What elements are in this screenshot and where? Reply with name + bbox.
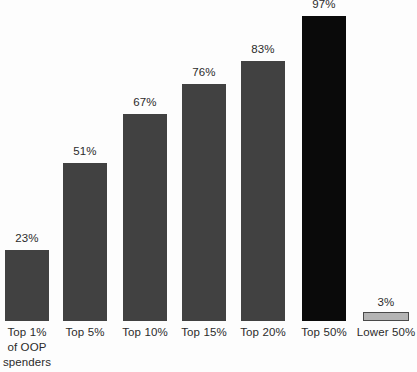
bar-top-5-pct-category-label: Top 5% [66, 325, 105, 340]
category-label-line: spenders [3, 355, 51, 370]
category-label-line: Top 15% [181, 325, 226, 340]
category-label-line: Lower 50% [357, 325, 415, 340]
bar-top-50-pct[interactable] [302, 16, 346, 321]
bar-lower-50-pct-group: 3%Lower 50% [363, 0, 409, 372]
bar-top-50-pct-value-label: 97% [312, 0, 335, 10]
category-label-line: Top 1% [3, 325, 51, 340]
bar-top-20-pct-category-label: Top 20% [240, 325, 285, 340]
bar-top-1-pct-value-label: 23% [15, 232, 38, 244]
bar-top-15-pct-group: 76%Top 15% [182, 0, 226, 372]
bar-top-1-pct-category-label: Top 1%of OOPspenders [3, 325, 51, 370]
bar-top-50-pct-category-label: Top 50% [301, 325, 346, 340]
bar-top-20-pct[interactable] [241, 61, 285, 321]
category-label-line: Top 20% [240, 325, 285, 340]
bar-top-15-pct[interactable] [182, 84, 226, 321]
category-label-line: of OOP [3, 340, 51, 355]
bar-top-20-pct-group: 83%Top 20% [241, 0, 285, 372]
bar-top-10-pct-category-label: Top 10% [122, 325, 167, 340]
bar-top-15-pct-category-label: Top 15% [181, 325, 226, 340]
bar-top-1-pct[interactable] [5, 250, 49, 321]
category-label-line: Top 10% [122, 325, 167, 340]
bar-top-1-pct-group: 23%Top 1%of OOPspenders [5, 0, 49, 372]
bar-top-5-pct[interactable] [63, 163, 107, 321]
bar-top-10-pct-group: 67%Top 10% [123, 0, 167, 372]
category-label-line: Top 50% [301, 325, 346, 340]
bar-top-10-pct[interactable] [123, 114, 167, 321]
bar-top-20-pct-value-label: 83% [251, 43, 274, 55]
bar-chart: 23%Top 1%of OOPspenders51%Top 5%67%Top 1… [0, 0, 417, 372]
bar-top-50-pct-group: 97%Top 50% [302, 0, 346, 372]
bar-top-10-pct-value-label: 67% [133, 96, 156, 108]
bar-lower-50-pct[interactable] [363, 312, 409, 321]
bar-lower-50-pct-value-label: 3% [378, 296, 395, 308]
bar-top-15-pct-value-label: 76% [192, 66, 215, 78]
category-label-line: Top 5% [66, 325, 105, 340]
bar-top-5-pct-group: 51%Top 5% [63, 0, 107, 372]
plot-area: 23%Top 1%of OOPspenders51%Top 5%67%Top 1… [0, 0, 417, 372]
bar-lower-50-pct-category-label: Lower 50% [357, 325, 415, 340]
bar-top-5-pct-value-label: 51% [73, 145, 96, 157]
